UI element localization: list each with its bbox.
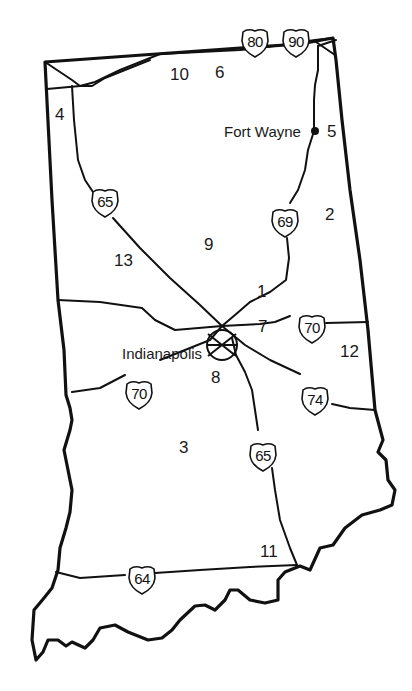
- region-label-8: 8: [211, 369, 220, 386]
- region-label-4: 4: [55, 106, 64, 123]
- shield-number: 65: [90, 193, 120, 210]
- interstate-shield-74: 74: [300, 384, 330, 416]
- road-i64: [56, 565, 297, 578]
- shield-number: 69: [270, 213, 300, 230]
- region-label-12: 12: [340, 343, 359, 360]
- interstate-shield-80: 80: [240, 26, 270, 58]
- region-label-3: 3: [179, 439, 188, 456]
- road-i69-lower: [222, 238, 289, 326]
- shield-number: 90: [281, 33, 311, 50]
- interstate-shield-65-north: 65: [90, 186, 120, 218]
- region-label-5: 5: [327, 123, 336, 140]
- interstate-shield-70-west: 70: [124, 378, 154, 410]
- city-label-fort-wayne: Fort Wayne: [224, 124, 301, 139]
- city-label-indianapolis: Indianapolis: [122, 346, 202, 361]
- road-i69-upper: [290, 131, 314, 203]
- shield-number: 74: [300, 391, 330, 408]
- region-label-10: 10: [170, 66, 189, 83]
- region-label-1: 1: [257, 283, 266, 300]
- road-west-to-indianapolis: [58, 300, 222, 330]
- road-north-lake-2: [80, 60, 150, 86]
- road-north-horizontal: [47, 86, 80, 89]
- region-label-6: 6: [215, 64, 224, 81]
- road-i65-north-upper: [72, 86, 100, 200]
- interstate-shield-69: 69: [270, 206, 300, 238]
- shield-number: 70: [297, 319, 327, 336]
- region-label-11: 11: [260, 543, 278, 560]
- shield-number: 70: [124, 385, 154, 402]
- region-label-9: 9: [204, 236, 213, 253]
- fort-wayne-dot: [311, 127, 319, 135]
- road-north-to-fort-wayne: [314, 46, 318, 131]
- region-label-7: 7: [258, 318, 267, 335]
- shield-number: 80: [240, 33, 270, 50]
- interstate-shield-65-south: 65: [248, 440, 278, 472]
- interstate-shield-90: 90: [281, 26, 311, 58]
- interstate-shield-64: 64: [127, 563, 157, 595]
- shield-number: 65: [248, 447, 278, 464]
- shield-number: 64: [127, 570, 157, 587]
- region-label-2: 2: [325, 206, 334, 223]
- road-i70-east: [222, 316, 368, 326]
- region-label-13: 13: [114, 252, 133, 269]
- interstate-shield-70-east: 70: [297, 312, 327, 344]
